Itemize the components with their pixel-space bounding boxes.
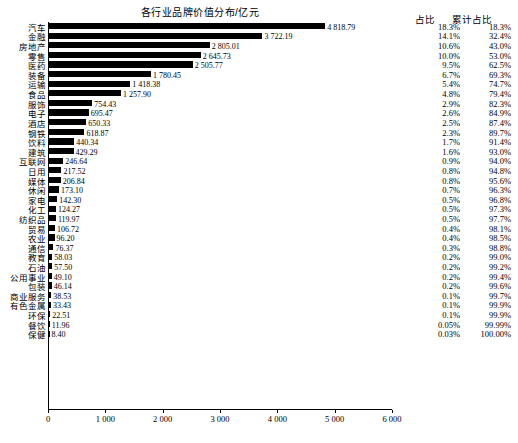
bar-value-label: 142.30 xyxy=(59,195,81,204)
share-value: 2.3% xyxy=(420,128,460,138)
bar-value-label: 429.29 xyxy=(76,147,98,156)
x-tick xyxy=(335,410,336,413)
cumulative-value: 99.9% xyxy=(455,300,511,310)
bar-value-label: 46.14 xyxy=(54,282,72,291)
cumulative-value: 43.0% xyxy=(455,41,511,51)
bar-row: 贸易106.720.4%98.1% xyxy=(49,224,392,234)
bar xyxy=(49,81,130,87)
cumulative-value: 100.00% xyxy=(455,329,511,339)
share-value: 0.2% xyxy=(420,262,460,272)
cumulative-value: 97.3% xyxy=(455,204,511,214)
bar xyxy=(49,100,92,106)
bar-value-label: 2 505.77 xyxy=(195,61,223,70)
bar-row: 石油57.500.2%99.2% xyxy=(49,262,392,272)
bar-row: 通信76.370.3%98.8% xyxy=(49,243,392,253)
x-tick-label: 2 000 xyxy=(153,414,172,424)
x-tick xyxy=(220,410,221,413)
bar-row: 钢铁618.872.3%89.7% xyxy=(49,128,392,138)
x-tick xyxy=(392,410,393,413)
cumulative-value: 98.5% xyxy=(455,233,511,243)
bar-value-label: 2 805.01 xyxy=(212,42,240,51)
cumulative-value: 95.6% xyxy=(455,176,511,186)
bar-row: 互联网246.640.9%94.0% xyxy=(49,157,392,167)
share-value: 0.1% xyxy=(420,310,460,320)
cumulative-value: 82.3% xyxy=(455,99,511,109)
bar xyxy=(49,61,193,67)
x-axis: 01 0002 0003 0004 0005 0006 000 xyxy=(48,410,392,432)
cumulative-value: 87.4% xyxy=(455,118,511,128)
bar-value-label: 11.96 xyxy=(52,320,70,329)
bar xyxy=(49,282,52,288)
share-value: 2.9% xyxy=(420,99,460,109)
cumulative-value: 69.3% xyxy=(455,70,511,80)
bar-value-label: 96.20 xyxy=(57,234,75,243)
bar-row: 装备1 780.456.7%69.3% xyxy=(49,70,392,80)
share-value: 0.5% xyxy=(420,195,460,205)
share-value: 10.6% xyxy=(420,41,460,51)
bar-value-label: 106.72 xyxy=(57,224,79,233)
x-tick-label: 1 000 xyxy=(96,414,115,424)
bar-row: 包装46.140.2%99.6% xyxy=(49,281,392,291)
cumulative-value: 94.0% xyxy=(455,156,511,166)
x-tick-label: 4 000 xyxy=(268,414,287,424)
cumulative-value: 97.7% xyxy=(455,214,511,224)
bar-row: 媒体206.840.8%95.6% xyxy=(49,176,392,186)
bar-value-label: 695.47 xyxy=(91,109,113,118)
cumulative-value: 74.7% xyxy=(455,79,511,89)
bar xyxy=(49,215,56,221)
share-value: 6.7% xyxy=(420,70,460,80)
share-value: 4.8% xyxy=(420,89,460,99)
bar xyxy=(49,196,57,202)
bar xyxy=(49,263,52,269)
share-value: 0.8% xyxy=(420,166,460,176)
bar xyxy=(49,225,55,231)
cumulative-value: 99.7% xyxy=(455,291,511,301)
bar-value-label: 2 645.73 xyxy=(203,51,231,60)
bar-row: 房地产2 805.0110.6%43.0% xyxy=(49,41,392,51)
cumulative-value: 89.7% xyxy=(455,128,511,138)
bar-value-label: 8.40 xyxy=(51,330,65,339)
x-tick xyxy=(105,410,106,413)
bar-value-label: 4 818.79 xyxy=(327,22,355,31)
chart-title: 各行业品牌价值分布/亿元 xyxy=(0,4,400,19)
bar-row: 建筑429.291.6%93.0% xyxy=(49,147,392,157)
bar-row: 服饰754.432.9%82.3% xyxy=(49,99,392,109)
bar-row: 休闲173.100.7%96.3% xyxy=(49,185,392,195)
bar xyxy=(49,148,74,154)
bar-value-label: 618.87 xyxy=(86,128,108,137)
cumulative-value: 93.0% xyxy=(455,147,511,157)
x-tick xyxy=(48,410,49,413)
cumulative-value: 99.2% xyxy=(455,262,511,272)
bar-value-label: 206.84 xyxy=(63,176,85,185)
cumulative-value: 32.4% xyxy=(455,31,511,41)
bar xyxy=(49,158,63,164)
bar-value-label: 3 722.19 xyxy=(264,32,292,41)
bar-value-label: 217.52 xyxy=(63,166,85,175)
share-value: 14.1% xyxy=(420,31,460,41)
share-value: 0.1% xyxy=(420,300,460,310)
share-value: 0.4% xyxy=(420,224,460,234)
share-value: 0.1% xyxy=(420,291,460,301)
bar-row: 饮料440.341.7%91.4% xyxy=(49,137,392,147)
bar xyxy=(49,234,55,240)
bar-row: 环保22.510.1%99.9% xyxy=(49,310,392,320)
bar-row: 酒店650.332.5%87.4% xyxy=(49,118,392,128)
cumulative-value: 99.0% xyxy=(455,252,511,262)
bar-value-label: 76.37 xyxy=(55,243,73,252)
bar-row: 家电142.300.5%96.8% xyxy=(49,195,392,205)
share-value: 2.5% xyxy=(420,118,460,128)
x-tick-label: 6 000 xyxy=(382,414,401,424)
bar-value-label: 38.53 xyxy=(53,291,71,300)
bar xyxy=(49,311,50,317)
cumulative-value: 99.4% xyxy=(455,272,511,282)
bar xyxy=(49,177,61,183)
bar-row: 运输1 418.385.4%74.7% xyxy=(49,80,392,90)
bar-row: 保健8.400.03%100.00% xyxy=(49,330,392,340)
bar-value-label: 22.51 xyxy=(52,311,70,320)
bar xyxy=(49,52,201,58)
bar-value-label: 1 418.38 xyxy=(132,80,160,89)
bar-row: 纺织品119.970.5%97.7% xyxy=(49,214,392,224)
share-value: 0.2% xyxy=(420,281,460,291)
bar-row: 零售2 645.7310.0%53.0% xyxy=(49,51,392,61)
share-value: 18.3% xyxy=(420,22,460,32)
